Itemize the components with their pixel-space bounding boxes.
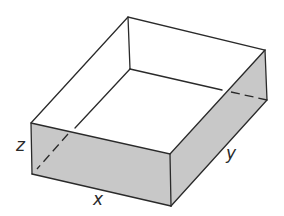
open-box-diagram [0, 0, 284, 216]
label-x: x [93, 191, 103, 208]
right-face [170, 50, 267, 206]
label-z: z [16, 137, 25, 154]
inner-back-edge [128, 17, 130, 69]
label-y: y [226, 145, 236, 162]
inner-bottom-left [75, 69, 130, 128]
inner-bottom-back [130, 69, 222, 90]
